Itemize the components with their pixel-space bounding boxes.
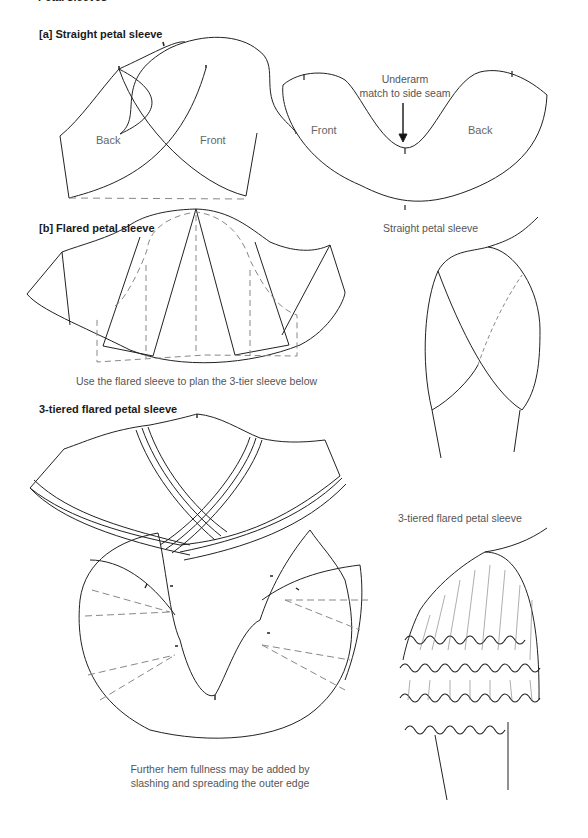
underarm-annotation-line1: Underarm [340,73,470,85]
straight-petal-left-pattern [60,37,296,199]
three-tier-top-pattern [30,414,346,560]
hem-fullness-caption-line2: slashing and spreading the outer edge [100,777,340,789]
three-tier-illustration-caption: 3-tiered flared petal sleeve [398,512,522,524]
three-tier-bottom-pattern [79,530,368,738]
section-b-heading: [b] Flared petal sleeve [39,222,155,234]
right-pattern-back-label: Back [468,124,492,136]
left-pattern-front-label: Front [200,134,226,146]
three-tier-illustration [400,528,547,800]
flared-sleeve-caption: Use the flared sleeve to plan the 3-tier… [76,375,317,387]
left-pattern-back-label: Back [96,134,120,146]
pattern-diagrams [0,0,588,838]
section-c-heading: 3-tiered flared petal sleeve [39,403,177,415]
right-pattern-front-label: Front [311,124,337,136]
straight-petal-illustration-caption: Straight petal sleeve [383,222,478,234]
underarm-annotation-line2: match to side seam [340,87,470,99]
hem-fullness-caption-line1: Further hem fullness may be added by [100,763,340,775]
straight-petal-illustration [425,217,540,458]
